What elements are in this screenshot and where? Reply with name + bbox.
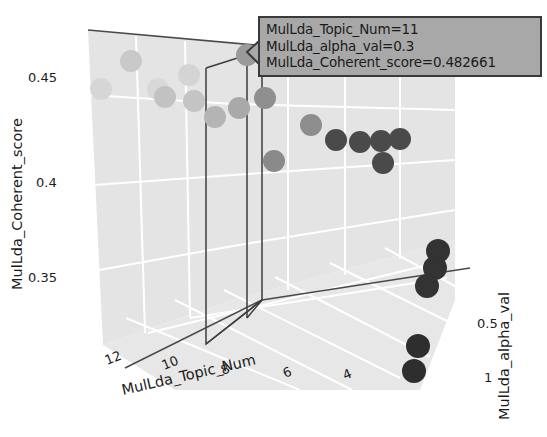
scatter-point[interactable] bbox=[204, 106, 226, 128]
tooltip-line-coherent-score: MulLda_Coherent_score=0.482661 bbox=[266, 54, 535, 71]
scatter-point[interactable] bbox=[90, 78, 112, 100]
y-tick-1: 0.4 bbox=[36, 175, 57, 190]
scatter-point[interactable] bbox=[325, 129, 347, 151]
scatter-point[interactable] bbox=[263, 150, 285, 172]
z-tick-1: 1 bbox=[484, 370, 492, 385]
scatter-point[interactable] bbox=[120, 50, 142, 72]
scatter-point[interactable] bbox=[402, 359, 426, 383]
scatter-point[interactable] bbox=[228, 97, 250, 119]
y-axis-label: MulLda_Coherent_score bbox=[9, 118, 25, 290]
y-tick-2: 0.35 bbox=[28, 270, 57, 285]
scatter-point[interactable] bbox=[370, 130, 392, 152]
scatter-point[interactable] bbox=[300, 114, 322, 136]
scatter-point[interactable] bbox=[406, 334, 430, 358]
scatter-point[interactable] bbox=[178, 64, 200, 86]
scatter-point[interactable] bbox=[372, 152, 394, 174]
scatter-point[interactable] bbox=[254, 87, 276, 109]
chart-canvas: 0.45 0.4 0.35 12 10 8 6 4 0.5 1 MulLda_C… bbox=[0, 0, 547, 437]
z-tick-0: 0.5 bbox=[477, 316, 498, 331]
scatter-point[interactable] bbox=[154, 86, 176, 108]
scatter-point[interactable] bbox=[349, 131, 371, 153]
scatter-point[interactable] bbox=[389, 128, 411, 150]
point-tooltip[interactable]: MulLda_Topic_Num=11 MulLda_alpha_val=0.3… bbox=[258, 16, 542, 77]
scatter-point[interactable] bbox=[415, 274, 439, 298]
back-wall-pane bbox=[88, 30, 233, 345]
scatter-point[interactable] bbox=[183, 90, 205, 112]
tooltip-line-topic-num: MulLda_Topic_Num=11 bbox=[266, 21, 535, 38]
tooltip-line-alpha-val: MulLda_alpha_val=0.3 bbox=[266, 38, 535, 55]
z-axis-label: MulLda_alpha_val bbox=[496, 292, 512, 420]
y-tick-0: 0.45 bbox=[28, 70, 57, 85]
